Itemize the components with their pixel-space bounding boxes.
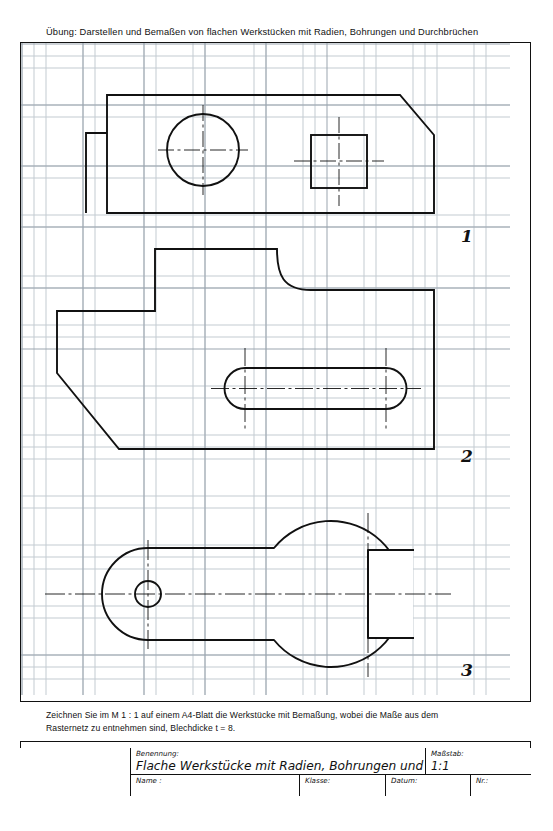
benennung-value: Flache Werkstücke mit Radien, Bohrungen … — [136, 759, 425, 774]
klasse-cell[interactable]: Klasse: — [300, 775, 386, 796]
benennung-cell: Benennung: Flache Werkstücke mit Radien,… — [131, 748, 426, 774]
name-label: Name : — [136, 777, 299, 785]
datum-label: Datum: — [391, 777, 470, 785]
instruction-block: Zeichnen Sie im M 1 : 1 auf einem A4-Bla… — [20, 701, 531, 742]
instruction-line-1: Zeichnen Sie im M 1 : 1 auf einem A4-Bla… — [46, 709, 507, 722]
title-block-row-bottom: Name : Klasse: Datum: Nr.: — [131, 775, 531, 796]
massstab-value: 1:1 — [431, 759, 531, 774]
datum-cell[interactable]: Datum: — [386, 775, 471, 796]
header-bar: Übung: Darstellen und Bemaßen von flache… — [20, 22, 531, 43]
part1-outline — [107, 95, 434, 213]
part-number-1: 1 — [461, 226, 473, 246]
name-cell[interactable]: Name : — [131, 775, 300, 796]
massstab-cell: Maßstab: 1:1 — [426, 748, 531, 774]
nr-label: Nr.: — [476, 777, 531, 785]
part-number-3: 3 — [461, 660, 473, 680]
part2-outline — [57, 249, 434, 449]
part1-step-edge — [86, 133, 107, 213]
exercise-title: Übung: Darstellen und Bemaßen von flache… — [20, 27, 478, 37]
title-block-row-top: Benennung: Flache Werkstücke mit Radien,… — [131, 748, 531, 775]
massstab-label: Maßstab: — [431, 750, 531, 758]
benennung-label: Benennung: — [136, 750, 425, 758]
title-block-fields: Benennung: Flache Werkstücke mit Radien,… — [131, 748, 531, 796]
part-number-2: 2 — [461, 446, 473, 466]
grid-drawing-area — [21, 43, 530, 695]
part1-centerlines — [158, 105, 384, 206]
exercise-sheet: Übung: Darstellen und Bemaßen von flache… — [0, 0, 553, 831]
title-block-logo-area — [20, 748, 131, 796]
technical-drawings — [21, 43, 530, 695]
instruction-line-2: Rasternetz zu entnehmen sind, Blechdicke… — [46, 722, 507, 735]
part2-centerlines — [211, 348, 421, 430]
nr-cell[interactable]: Nr.: — [471, 775, 531, 796]
klasse-label: Klasse: — [305, 777, 385, 785]
title-block: Benennung: Flache Werkstücke mit Radien,… — [20, 748, 531, 796]
